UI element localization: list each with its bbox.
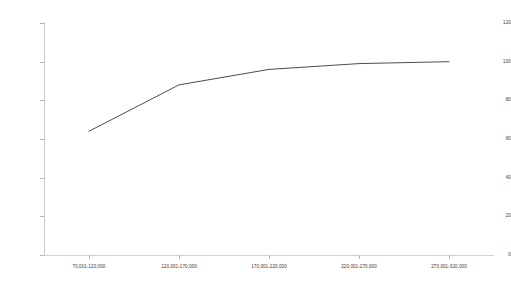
y-tick-mark bbox=[40, 100, 44, 101]
y-tick-label: 80 bbox=[479, 97, 511, 102]
y-tick-label: 40 bbox=[479, 175, 511, 180]
y-tick-mark bbox=[40, 255, 44, 256]
plot-area: 020406080100120 70,001-120,000120,001-17… bbox=[0, 0, 511, 296]
x-tick-mark bbox=[269, 255, 270, 259]
y-tick-label: 120 bbox=[479, 20, 511, 25]
y-tick-mark bbox=[40, 216, 44, 217]
y-axis-line bbox=[44, 22, 45, 256]
y-tick-label: 100 bbox=[479, 59, 511, 64]
x-tick-label: 170,001-220,000 bbox=[224, 264, 314, 270]
x-tick-mark bbox=[89, 255, 90, 259]
line-chart: 020406080100120 70,001-120,000120,001-17… bbox=[0, 0, 511, 296]
y-tick-label: 20 bbox=[479, 213, 511, 218]
y-tick-label: 60 bbox=[479, 136, 511, 141]
y-tick-mark bbox=[40, 178, 44, 179]
y-tick-mark bbox=[40, 139, 44, 140]
x-tick-mark bbox=[359, 255, 360, 259]
x-tick-mark bbox=[179, 255, 180, 259]
x-tick-label: 70,001-120,000 bbox=[44, 264, 134, 270]
series-line bbox=[0, 0, 511, 296]
y-tick-mark bbox=[40, 23, 44, 24]
x-tick-label: 120,001-170,000 bbox=[134, 264, 224, 270]
x-tick-mark bbox=[449, 255, 450, 259]
y-tick-label: 0 bbox=[479, 252, 511, 257]
x-tick-label: 270,001-320,000 bbox=[404, 264, 494, 270]
x-tick-label: 220,001-270,000 bbox=[314, 264, 404, 270]
y-tick-mark bbox=[40, 62, 44, 63]
